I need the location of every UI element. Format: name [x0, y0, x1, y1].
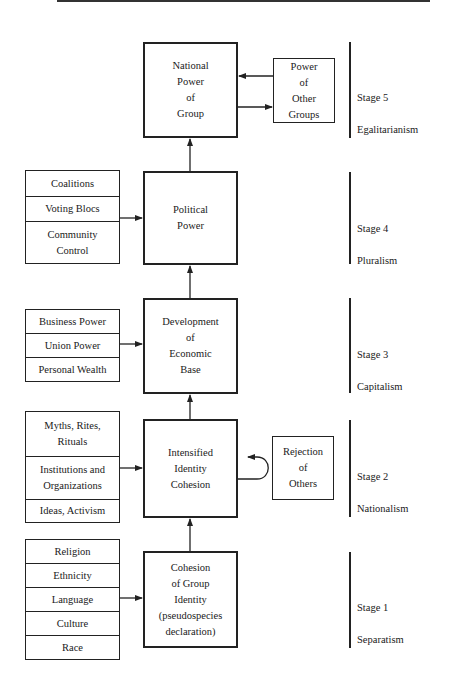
political-power-label: Political Power [173, 202, 208, 234]
stage2-bar [349, 420, 351, 517]
list-item: Myths, Rites, Rituals [26, 412, 119, 456]
list-item: Voting Blocs [26, 196, 119, 221]
stage3-bar [349, 298, 351, 393]
stage2-input-list: Myths, Rites, Rituals Institutions and O… [25, 411, 120, 523]
list-item: Coalitions [26, 171, 119, 196]
stage3-input-list: Business Power Union Power Personal Weal… [25, 309, 120, 382]
national-power-box: National Power of Group [143, 42, 238, 138]
list-item: Ethnicity [26, 563, 119, 587]
list-item: Race [26, 635, 119, 659]
other-groups-box: Power of Other Groups [273, 58, 335, 123]
list-item: Language [26, 587, 119, 611]
stage3-number: Stage 3 [357, 347, 403, 363]
national-power-label: National Power of Group [172, 58, 208, 122]
list-item: Business Power [26, 310, 119, 333]
identity-cohesion-label: Intensified Identity Cohesion [168, 445, 213, 493]
list-item: Community Control [26, 221, 119, 263]
economic-base-box: Development of Economic Base [143, 298, 238, 394]
stage1-label: Stage 1 Separatism [357, 584, 404, 664]
stage5-name: Egalitarianism [357, 122, 418, 138]
list-item: Ideas, Activism [26, 499, 119, 522]
stage5-label: Stage 5 Egalitarianism [357, 74, 418, 154]
stage1-number: Stage 1 [357, 600, 404, 616]
stage3-name: Capitalism [357, 379, 403, 395]
economic-base-label: Development of Economic Base [162, 314, 219, 378]
list-item: Union Power [26, 333, 119, 357]
rejection-label: Rejection of Others [283, 444, 323, 492]
group-identity-box: Cohesion of Group Identity (pseudospecie… [143, 551, 238, 648]
stage4-label: Stage 4 Pluralism [357, 205, 397, 285]
stage2-name: Nationalism [357, 501, 408, 517]
stage2-label: Stage 2 Nationalism [357, 453, 408, 533]
stage1-input-list: Religion Ethnicity Language Culture Race [25, 539, 120, 660]
stage5-bar [349, 42, 351, 138]
stage4-input-list: Coalitions Voting Blocs Community Contro… [25, 170, 120, 264]
stage1-bar [349, 552, 351, 648]
stage2-number: Stage 2 [357, 469, 408, 485]
stage1-name: Separatism [357, 632, 404, 648]
stage4-bar [349, 172, 351, 264]
list-item: Personal Wealth [26, 357, 119, 381]
stage4-number: Stage 4 [357, 221, 397, 237]
list-item: Religion [26, 540, 119, 563]
list-item: Institutions and Organizations [26, 456, 119, 499]
stage5-number: Stage 5 [357, 90, 418, 106]
group-identity-label: Cohesion of Group Identity (pseudospecie… [159, 560, 223, 640]
identity-cohesion-box: Intensified Identity Cohesion [143, 419, 238, 518]
stage4-name: Pluralism [357, 253, 397, 269]
political-power-box: Political Power [143, 171, 238, 265]
list-item: Culture [26, 611, 119, 635]
stage3-label: Stage 3 Capitalism [357, 331, 403, 411]
rejection-box: Rejection of Others [272, 436, 334, 500]
other-groups-label: Power of Other Groups [289, 59, 320, 123]
